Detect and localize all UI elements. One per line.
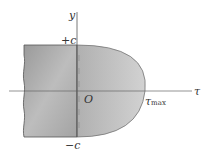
tau-max-label: τmax [145,96,166,107]
diagram-canvas [0,0,205,156]
y-axis-label: y [69,10,75,21]
top-marker-label: +c [61,35,76,46]
tau-axis-label: τ [194,86,200,97]
origin-label: O [84,94,93,105]
bottom-marker-label: −c [65,140,80,151]
